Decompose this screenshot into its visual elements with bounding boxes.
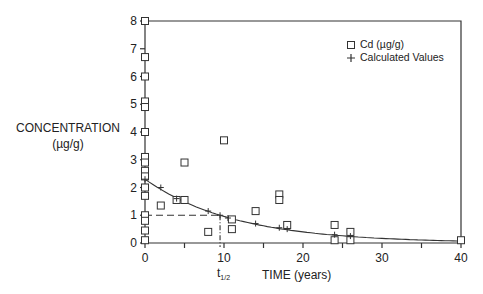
x-axis-label: TIME (years) bbox=[262, 268, 331, 282]
x-tick-label: 30 bbox=[375, 251, 389, 265]
cd-point bbox=[181, 159, 188, 166]
cd-point bbox=[228, 226, 235, 233]
cd-point bbox=[142, 192, 149, 199]
y-tick-label: 8 bbox=[130, 14, 137, 28]
cd-point bbox=[142, 104, 149, 111]
x-tick-label: 20 bbox=[296, 251, 310, 265]
legend-label-calculated: Calculated Values bbox=[360, 51, 444, 64]
cd-point bbox=[142, 73, 149, 80]
y-axis-label-line1: CONCENTRATION bbox=[4, 120, 132, 136]
cd-point bbox=[458, 237, 465, 244]
legend-label-cd: Cd (µg/g) bbox=[360, 38, 404, 51]
y-tick-label: 3 bbox=[130, 153, 137, 167]
cd-point bbox=[331, 221, 338, 228]
cd-point bbox=[205, 228, 212, 235]
calculated-points bbox=[142, 176, 353, 239]
cd-point bbox=[142, 227, 149, 234]
cd-point bbox=[142, 184, 149, 191]
x-tick-label: 40 bbox=[454, 251, 468, 265]
cd-point bbox=[142, 129, 149, 136]
cd-point bbox=[142, 237, 149, 244]
cd-point bbox=[228, 216, 235, 223]
y-tick-label: 0 bbox=[130, 236, 137, 250]
calculated-point bbox=[217, 212, 223, 218]
calculated-point bbox=[158, 185, 164, 191]
y-tick-label: 2 bbox=[130, 181, 137, 195]
y-axis-label: CONCENTRATION (µg/g) bbox=[4, 120, 132, 152]
calculated-point bbox=[253, 221, 259, 227]
y-tick-label: 5 bbox=[130, 97, 137, 111]
cd-point bbox=[221, 137, 228, 144]
cd-point bbox=[142, 159, 149, 166]
y-axis-label-line2: (µg/g) bbox=[4, 136, 132, 152]
y-tick-label: 6 bbox=[130, 70, 137, 84]
cd-point bbox=[142, 18, 149, 25]
cd-point bbox=[276, 196, 283, 203]
square-marker-icon bbox=[347, 41, 355, 49]
cd-point bbox=[157, 202, 164, 209]
half-life-subscript: 1/2 bbox=[220, 274, 230, 281]
y-tick-label: 1 bbox=[130, 208, 137, 222]
cd-point bbox=[142, 217, 149, 224]
x-tick-label: 10 bbox=[217, 251, 231, 265]
cd-point bbox=[181, 196, 188, 203]
plus-marker-icon bbox=[347, 54, 355, 62]
y-tick-label: 7 bbox=[130, 42, 137, 56]
cd-point bbox=[252, 208, 259, 215]
calculated-point bbox=[276, 225, 282, 231]
legend-item-calculated: Calculated Values bbox=[347, 51, 444, 64]
x-tick-label: 0 bbox=[142, 251, 149, 265]
cd-point bbox=[331, 237, 338, 244]
legend: Cd (µg/g) Calculated Values bbox=[347, 38, 444, 64]
cd-point bbox=[142, 54, 149, 61]
legend-item-cd: Cd (µg/g) bbox=[347, 38, 444, 51]
fit-curve bbox=[145, 179, 461, 241]
half-life-label: t1/2 bbox=[217, 266, 230, 281]
calculated-point bbox=[205, 208, 211, 214]
